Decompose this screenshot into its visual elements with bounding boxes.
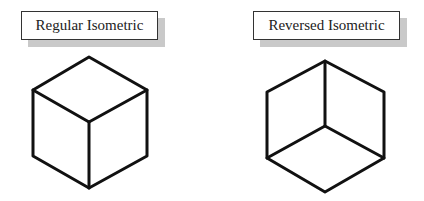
cube-drawings [0, 0, 424, 201]
reversed-isometric-cube [267, 61, 384, 192]
regular-isometric-cube [33, 57, 147, 188]
